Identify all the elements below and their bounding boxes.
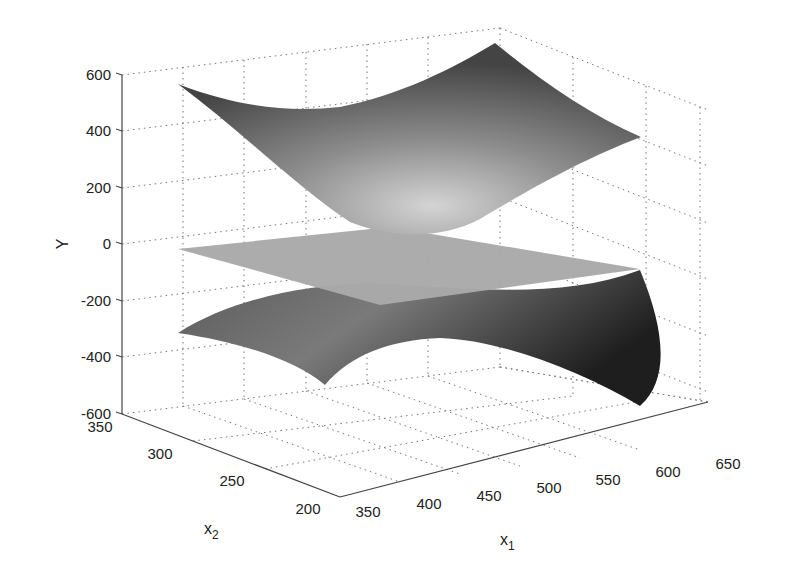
svg-text:600: 600 [655,463,680,480]
svg-text:-200: -200 [81,292,111,309]
surface-plot: 600 400 200 0 -200 -400 -600 Y 350 300 2… [0,0,791,586]
chart-figure: 600 400 200 0 -200 -400 -600 Y 350 300 2… [0,0,791,586]
svg-text:500: 500 [536,479,561,496]
svg-text:550: 550 [595,471,620,488]
svg-text:400: 400 [416,495,441,512]
svg-text:350: 350 [355,503,380,520]
z-axis-ticks: 600 400 200 0 -200 -400 -600 [81,66,111,422]
svg-text:600: 600 [86,66,111,83]
svg-text:0: 0 [103,235,111,252]
x2-axis-label: x2 [204,520,219,542]
svg-text:400: 400 [86,122,111,139]
x2-axis-ticks: 350 300 250 200 [87,418,320,517]
svg-text:300: 300 [147,445,172,462]
svg-text:250: 250 [219,472,244,489]
upper-surface [178,43,641,234]
svg-text:650: 650 [715,455,740,472]
z-axis-label: Y [54,238,71,249]
svg-text:200: 200 [86,179,111,196]
svg-text:200: 200 [295,500,320,517]
x1-axis-ticks: 350 400 450 500 550 600 650 [355,455,740,520]
svg-text:450: 450 [476,487,501,504]
svg-text:350: 350 [87,418,112,435]
x1-axis-label: x1 [500,531,515,553]
svg-text:-400: -400 [81,348,111,365]
